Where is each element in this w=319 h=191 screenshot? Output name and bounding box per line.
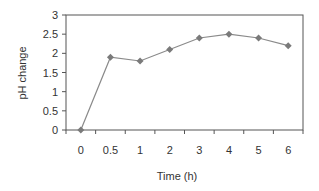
diamond-marker-icon	[225, 31, 232, 38]
x-axis: 00.5123456	[66, 130, 303, 156]
x-tick-label: 0.5	[103, 144, 118, 156]
y-axis: 00.511.522.53	[43, 9, 66, 136]
diamond-marker-icon	[285, 42, 292, 49]
x-axis-title: Time (h)	[157, 170, 198, 182]
x-tick-label: 3	[196, 144, 202, 156]
x-tick-label: 1	[137, 144, 143, 156]
y-tick-label: 1.5	[43, 67, 58, 79]
diamond-marker-icon	[196, 35, 203, 42]
y-tick-label: 3	[52, 9, 58, 21]
data-series	[77, 31, 291, 134]
y-tick-label: 2	[52, 47, 58, 59]
diamond-marker-icon	[137, 58, 144, 65]
y-tick-label: 2.5	[43, 28, 58, 40]
line-chart: 00.511.522.53 00.5123456 Time (h) pH cha…	[0, 0, 319, 191]
y-tick-label: 0	[52, 124, 58, 136]
x-tick-label: 0	[78, 144, 84, 156]
plot-area-frame	[66, 15, 303, 130]
y-tick-label: 0.5	[43, 105, 58, 117]
x-tick-label: 4	[226, 144, 232, 156]
diamond-marker-icon	[255, 35, 262, 42]
diamond-marker-icon	[107, 54, 114, 61]
x-tick-label: 2	[167, 144, 173, 156]
diamond-marker-icon	[166, 46, 173, 53]
x-tick-label: 6	[285, 144, 291, 156]
y-axis-title: pH change	[16, 46, 28, 99]
y-tick-label: 1	[52, 86, 58, 98]
plot-frame	[66, 15, 303, 130]
x-tick-label: 5	[256, 144, 262, 156]
diamond-marker-icon	[77, 127, 84, 134]
series-line	[81, 34, 288, 130]
